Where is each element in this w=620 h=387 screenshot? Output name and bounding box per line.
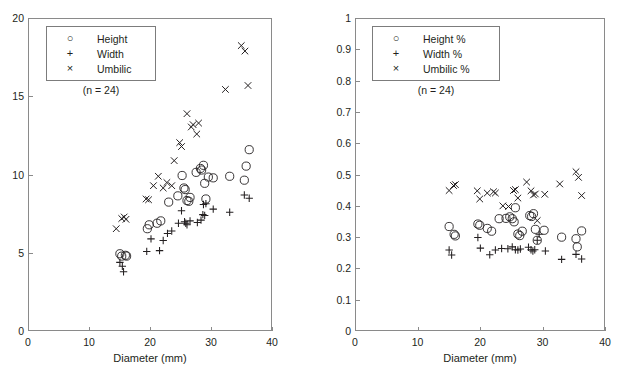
y-tick-label: 5: [0, 248, 24, 259]
data-point-cross: [195, 120, 202, 127]
data-point-plus: [241, 191, 248, 198]
y-tick: [356, 49, 360, 50]
x-axis-title-left: Diameter (mm): [113, 352, 186, 364]
data-point-cross: [222, 86, 229, 93]
data-point-plus: [572, 251, 579, 258]
y-tick: [356, 81, 360, 82]
data-point-cross: [238, 42, 245, 49]
data-point-cross: [474, 188, 481, 195]
y-tick: [29, 253, 33, 254]
data-point-plus: [504, 245, 511, 252]
data-point-plus: [201, 212, 208, 219]
data-point-cross: [123, 216, 130, 223]
data-point-plus: [160, 237, 167, 244]
x-tick: [605, 327, 606, 331]
y-tick: [356, 112, 360, 113]
data-point-cross: [113, 225, 120, 232]
legend-label-umbilic: Umbilic: [87, 63, 131, 75]
data-point-circle: [226, 172, 234, 180]
plus-marker-icon: +: [379, 48, 413, 59]
x-tick: [272, 327, 273, 331]
legend-item-height-pct: ○ Height %: [379, 31, 491, 46]
data-point-plus: [156, 247, 163, 254]
y-tick: [29, 96, 33, 97]
data-point-plus: [178, 207, 185, 214]
data-point-cross: [160, 185, 167, 192]
x-tick-label: 30: [537, 337, 549, 348]
data-point-plus: [199, 211, 206, 218]
x-tick-label: 40: [599, 337, 611, 348]
data-point-plus: [542, 247, 549, 254]
data-point-circle: [510, 218, 518, 226]
data-point-circle: [240, 176, 248, 184]
x-tick-label: 0: [25, 337, 31, 348]
data-point-circle: [165, 198, 173, 206]
circle-marker-icon: ○: [379, 33, 413, 44]
data-point-plus: [535, 231, 542, 238]
y-tick-label: 0.6: [325, 138, 351, 149]
x-tick: [211, 327, 212, 331]
legend-label-height: Height: [87, 33, 127, 45]
data-point-plus: [486, 251, 493, 258]
y-tick-label: 0.1: [325, 294, 351, 305]
x-tick: [150, 327, 151, 331]
x-tick-label: 20: [144, 337, 156, 348]
data-point-plus: [226, 209, 233, 216]
data-point-circle: [245, 146, 253, 154]
data-point-cross: [556, 181, 563, 188]
data-point-plus: [120, 268, 127, 275]
scatter-figure: 01020304005101520 Diameter (mm) ○ Height…: [0, 0, 620, 387]
y-tick: [356, 175, 360, 176]
x-tick: [418, 327, 419, 331]
data-point-cross: [476, 196, 483, 203]
legend-item-width: + Width: [53, 46, 147, 61]
y-tick: [356, 143, 360, 144]
y-tick: [29, 175, 33, 176]
legend-label-width: Width: [87, 48, 124, 60]
y-tick: [356, 300, 360, 301]
data-point-plus: [578, 255, 585, 262]
y-tick-label: 0.7: [325, 107, 351, 118]
y-tick-label: 1: [325, 13, 351, 24]
data-point-circle: [578, 227, 586, 235]
data-point-circle: [558, 233, 566, 241]
y-tick-label: 0.8: [325, 75, 351, 86]
data-point-circle: [201, 179, 209, 187]
x-tick-label: 10: [83, 337, 95, 348]
y-tick-label: 0.4: [325, 201, 351, 212]
legend-label-width-pct: Width %: [413, 48, 462, 60]
legend-item-width-pct: + Width %: [379, 46, 491, 61]
data-point-cross: [505, 203, 512, 210]
data-point-circle: [531, 225, 539, 233]
data-point-circle: [242, 162, 250, 170]
data-point-cross: [528, 188, 535, 195]
legend-left: ○ Height + Width × Umbilic: [46, 26, 156, 81]
data-point-circle: [511, 204, 519, 212]
circle-marker-icon: ○: [53, 33, 87, 44]
legend-right: ○ Height % + Width % × Umbilic %: [372, 26, 500, 81]
data-point-circle: [209, 174, 217, 182]
legend-label-height-pct: Height %: [413, 33, 466, 45]
x-tick-label: 10: [412, 337, 424, 348]
y-tick-label: 0: [0, 326, 24, 337]
data-point-cross: [578, 192, 585, 199]
legend-item-height: ○ Height: [53, 31, 147, 46]
x-tick-label: 0: [352, 337, 358, 348]
legend-label-umbilic-pct: Umbilic %: [413, 63, 470, 75]
y-tick-label: 0.9: [325, 44, 351, 55]
x-tick: [543, 327, 544, 331]
y-tick-label: 0: [325, 326, 351, 337]
y-tick: [356, 237, 360, 238]
data-point-cross: [242, 48, 249, 55]
data-point-circle: [572, 235, 580, 243]
data-point-cross: [245, 82, 252, 89]
x-axis-title-right: Diameter (mm): [443, 352, 516, 364]
cross-marker-icon: ×: [379, 63, 413, 74]
y-tick-label: 0.3: [325, 232, 351, 243]
y-tick-label: 0.2: [325, 263, 351, 274]
data-point-plus: [175, 220, 182, 227]
y-tick: [29, 18, 33, 19]
x-tick-label: 20: [474, 337, 486, 348]
series-height: [116, 146, 254, 261]
data-point-cross: [484, 190, 491, 197]
